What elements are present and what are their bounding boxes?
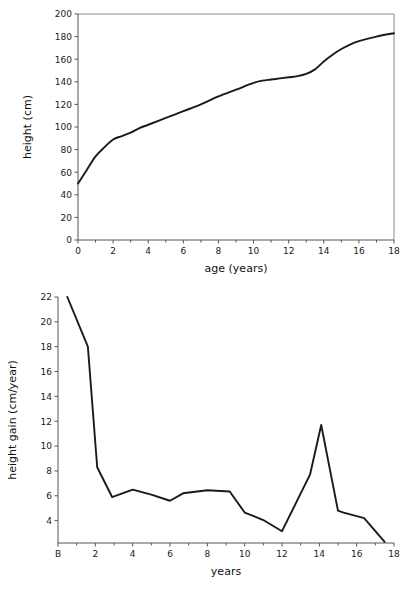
height-velocity-chart: 46810121416182022B24681012141618yearshei… (0, 290, 416, 589)
x-axis-tick-label: 16 (351, 549, 363, 559)
plot-axes (78, 14, 394, 240)
x-axis-tick-label: 4 (130, 549, 136, 559)
y-axis-tick-label: 8 (46, 466, 52, 476)
x-axis-tick-label: 12 (276, 549, 287, 559)
x-axis-tick-label: 10 (239, 549, 251, 559)
x-axis-tick-label: 10 (248, 246, 260, 256)
x-axis-tick-label: 0 (75, 246, 81, 256)
height-distance-chart: 0204060801001201401601802000246810121416… (0, 0, 416, 290)
y-axis-tick-label: 0 (66, 235, 72, 245)
x-axis-tick-label: 12 (283, 246, 294, 256)
x-axis-tick-label: 6 (167, 549, 173, 559)
y-axis-tick-label: 4 (46, 516, 52, 526)
x-axis-tick-label: 8 (204, 549, 210, 559)
y-axis-tick-label: 40 (61, 190, 73, 200)
y-axis-title: height (cm) (21, 95, 34, 159)
y-axis-tick-label: 200 (55, 9, 72, 19)
y-axis-tick-label: 160 (55, 55, 72, 65)
y-axis-tick-label: 14 (41, 392, 53, 402)
x-axis-tick-label: 14 (318, 246, 330, 256)
y-axis-tick-label: 22 (41, 292, 52, 302)
data-series-line (78, 33, 394, 183)
y-axis-tick-label: 80 (61, 145, 73, 155)
plot-axes (58, 297, 394, 543)
x-axis-title: age (years) (205, 262, 268, 275)
y-axis-title: height gain (cm/year) (6, 360, 19, 479)
y-axis-tick-label: 20 (41, 317, 53, 327)
x-axis-tick-label: 16 (353, 246, 365, 256)
plot-frame (78, 14, 394, 240)
y-axis-tick-label: 100 (55, 122, 72, 132)
x-axis-title: years (211, 565, 242, 578)
y-axis-tick-label: 60 (61, 168, 73, 178)
x-axis-tick-label: 6 (180, 246, 186, 256)
x-axis-tick-label: 4 (145, 246, 151, 256)
y-axis-tick-label: 18 (41, 342, 53, 352)
y-axis-tick-label: 140 (55, 77, 72, 87)
growth-chart-figure: 0204060801001201401601802000246810121416… (0, 0, 416, 589)
y-axis-tick-label: 180 (55, 32, 72, 42)
x-axis-tick-label: 2 (110, 246, 116, 256)
x-axis-tick-label: 14 (314, 549, 326, 559)
data-series-line (67, 297, 384, 542)
y-axis-tick-label: 20 (61, 213, 73, 223)
x-axis-tick-label: B (55, 549, 61, 559)
x-axis-tick-label: 18 (388, 246, 400, 256)
x-axis-tick-label: 8 (216, 246, 222, 256)
y-axis-tick-label: 12 (41, 417, 52, 427)
y-axis-tick-label: 16 (41, 367, 53, 377)
x-axis-tick-label: 18 (388, 549, 400, 559)
x-axis-tick-label: 2 (92, 549, 98, 559)
figure-caption-partial (6, 578, 176, 586)
y-axis-tick-label: 120 (55, 100, 72, 110)
y-axis-tick-label: 10 (41, 441, 53, 451)
y-axis-tick-label: 6 (46, 491, 52, 501)
